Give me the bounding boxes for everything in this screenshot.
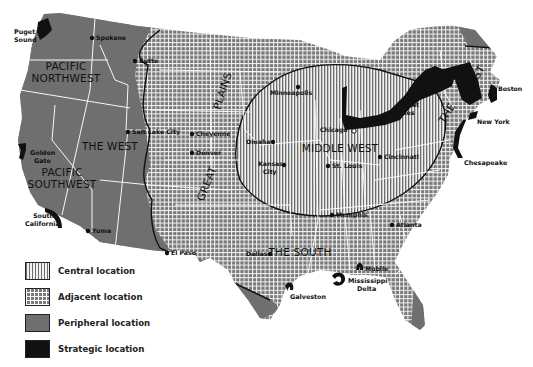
city-yuma: Yuma	[91, 227, 111, 234]
peripheral-swatch-icon	[25, 314, 50, 332]
city-new-york: New York	[477, 118, 510, 125]
strategic-swatch-icon	[25, 340, 50, 358]
mississippi-delta-feature	[332, 273, 345, 286]
city-spokane: Spokane	[96, 34, 126, 42]
legend-label-central: Central location	[58, 266, 135, 276]
legend-item-central: Central location	[25, 258, 150, 284]
legend-item-peripheral: Peripheral location	[25, 310, 150, 336]
city-minneapolis: Minneapolis	[270, 89, 312, 97]
label-mississippi-delta: MississippiDelta	[348, 277, 388, 293]
city-boston: Boston	[498, 85, 522, 92]
label-puget-sound: PugetSound	[14, 28, 37, 44]
legend-label-strategic: Strategic location	[58, 344, 144, 354]
label-galveston: Galveston	[290, 293, 326, 301]
city-cincinnati: Cincinnati	[384, 153, 419, 160]
city-denver: Denver	[196, 149, 222, 156]
legend-item-adjacent: Adjacent location	[25, 284, 150, 310]
adjacent-swatch-icon	[25, 288, 50, 306]
city-st-louis: St. Louis	[332, 162, 363, 169]
city-atlanta: Atlanta	[396, 221, 422, 228]
label-the-west: THE WEST	[81, 140, 138, 152]
legend-label-peripheral: Peripheral location	[58, 318, 150, 328]
legend-item-strategic: Strategic location	[25, 336, 150, 362]
city-mobile: Mobile	[365, 265, 388, 272]
central-swatch-icon	[25, 262, 50, 280]
label-chesapeake: Chesapeake	[464, 159, 508, 167]
city-memphis: Memphis	[336, 211, 368, 219]
city-butte: Butte	[139, 57, 158, 64]
city-cheyenne: Cheyenne	[196, 130, 230, 138]
city-el-paso: El Paso	[171, 249, 196, 256]
city-salt-lake-city: Salt Lake City	[132, 128, 180, 136]
legend-label-adjacent: Adjacent location	[58, 292, 143, 302]
peripheral-region-florida	[410, 264, 450, 340]
city-omaha: Omaha	[246, 138, 270, 145]
label-middle-west: MIDDLE WEST	[302, 142, 379, 154]
map-legend: Central location Adjacent location Perip…	[25, 258, 150, 362]
city-chicago: Chicago	[320, 126, 348, 134]
city-dallas: Dallas	[246, 250, 268, 257]
label-the-south: THE SOUTH	[267, 246, 331, 258]
